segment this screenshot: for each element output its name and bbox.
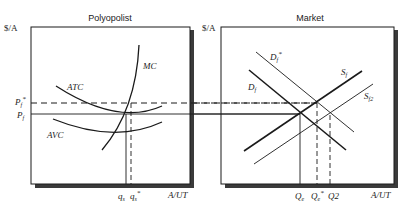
avc-label: AVC [46, 130, 65, 140]
qs-label: qs [118, 191, 126, 202]
demand-curve-df-star [256, 52, 354, 132]
price-label-pf: Pf [16, 110, 26, 121]
panel-shadow-bottom [35, 184, 194, 188]
polyopolist-panel: Polyopolist $/A A/UT Pf* Pf MC ATC AVC q… [4, 13, 317, 202]
atc-label: ATC [66, 82, 84, 92]
right-y-axis-label: $/A [202, 23, 216, 33]
qe-star-label: Qe* [311, 189, 324, 202]
market-panel: Market $/A A/UT Df* Df Sf Sf2 Qe Qe* Q2 [194, 13, 398, 202]
df-star-label: Df* [269, 50, 282, 63]
economics-diagram: Polyopolist $/A A/UT Pf* Pf MC ATC AVC q… [0, 0, 411, 211]
market-plot-frame [221, 27, 394, 184]
q2-label: Q2 [328, 191, 339, 201]
polyopolist-plot-frame [31, 27, 190, 184]
panel-shadow-bottom [225, 184, 398, 188]
supply-curve-sf2 [254, 84, 373, 164]
df-label: Df [247, 82, 258, 93]
polyopolist-title: Polyopolist [88, 13, 132, 23]
left-x-axis-label: A/UT [167, 190, 188, 200]
market-title: Market [296, 13, 324, 23]
sf2-label: Sf2 [364, 91, 373, 102]
left-y-axis-label: $/A [4, 23, 18, 33]
sf-label: Sf [341, 67, 349, 78]
panel-shadow-right [190, 30, 194, 188]
right-x-axis-label: A/UT [370, 190, 391, 200]
qs-star-label: qs* [130, 189, 141, 202]
mc-label: MC [142, 61, 157, 71]
supply-curve-sf [244, 71, 362, 151]
panel-shadow-right [394, 30, 398, 188]
price-label-pf-star: Pf* [14, 95, 26, 108]
qe-label: Qe [295, 191, 305, 202]
